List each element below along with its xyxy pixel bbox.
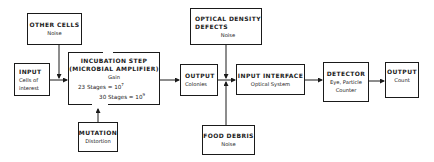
- incubation-stage1: 23 Stages = 107: [69, 81, 124, 91]
- optical-density-title2: DEFECTS: [195, 23, 228, 31]
- other-cells-title: OTHER CELLS: [30, 21, 80, 29]
- other-cells-sub: Noise: [47, 29, 61, 37]
- optical-density-sub: Noise: [221, 31, 235, 39]
- incubation-bottom-notch: [92, 102, 108, 107]
- output-colonies-sub: Colonies: [185, 80, 207, 88]
- optical-density-title1: OPTICAL DENSITY: [195, 15, 261, 23]
- input-interface-sub: Optical System: [251, 80, 290, 88]
- input-title: INPUT: [19, 68, 42, 76]
- food-debris-box: FOOD DEBRIS Noise: [202, 125, 255, 155]
- detector-sub2: Counter: [336, 86, 357, 94]
- incubation-title2: (MICROBIAL AMPLIFIER): [69, 65, 159, 73]
- food-debris-sub: Noise: [221, 140, 235, 148]
- input-interface-box: INPUT INTERFACE Optical System: [236, 64, 305, 95]
- input-sub1: Cells of: [19, 76, 38, 84]
- mutation-box: MUTATION Distortion: [78, 122, 118, 152]
- output-colonies-title: OUTPUT: [185, 72, 215, 80]
- other-cells-box: OTHER CELLS Noise: [27, 13, 82, 45]
- incubation-gain-label: Gain: [108, 73, 120, 81]
- incubation-stage2: 30 Stages = 109: [99, 91, 159, 101]
- incubation-title1: INCUBATION STEP: [81, 57, 148, 65]
- output-count-sub: Count: [394, 76, 409, 84]
- input-sub2: interest: [19, 84, 39, 92]
- detector-title: DETECTOR: [327, 70, 366, 78]
- incubation-box: INCUBATION STEP (MICROBIAL AMPLIFIER) Ga…: [68, 52, 160, 105]
- incubation-top-notch: [103, 50, 113, 55]
- optical-density-box: OPTICAL DENSITY DEFECTS Noise: [190, 8, 262, 45]
- detector-box: DETECTOR Eye, Particle Counter: [323, 62, 369, 102]
- output-count-box: OUTPUT Count: [385, 62, 419, 98]
- input-box: INPUT Cells of interest: [14, 63, 50, 96]
- mutation-title: MUTATION: [79, 129, 117, 137]
- detector-sub1: Eye, Particle: [330, 78, 362, 86]
- mutation-sub: Distortion: [85, 137, 110, 145]
- input-interface-title: INPUT INTERFACE: [238, 72, 303, 80]
- output-colonies-box: OUTPUT Colonies: [180, 64, 218, 96]
- food-debris-title: FOOD DEBRIS: [203, 132, 254, 140]
- output-count-title: OUTPUT: [387, 68, 417, 76]
